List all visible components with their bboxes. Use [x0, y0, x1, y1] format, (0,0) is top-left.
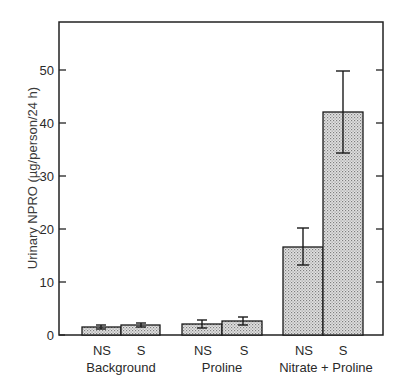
x-label-background-s: S	[137, 343, 146, 358]
group-label-proline: Proline	[202, 360, 242, 375]
group-label-background: Background	[86, 360, 155, 375]
x-label-nitrate-proline-ns: NS	[295, 343, 313, 358]
y-tick-20: 20	[40, 222, 54, 237]
bars	[82, 112, 363, 335]
x-label-background-ns: NS	[93, 343, 111, 358]
y-tick-labels: 0 10 20 30 40 50	[40, 63, 54, 343]
x-sub-labels: NS S NS S NS S	[93, 343, 348, 358]
y-tick-40: 40	[40, 116, 54, 131]
bar-chart: 0 10 20 30 40 50 Urinary NPRO (µg/person…	[0, 0, 402, 388]
bar-proline-s	[222, 321, 262, 335]
y-tick-50: 50	[40, 63, 54, 78]
x-group-labels: Background Proline Nitrate + Proline	[86, 360, 372, 375]
group-label-nitrate-proline: Nitrate + Proline	[279, 360, 373, 375]
y-tick-30: 30	[40, 169, 54, 184]
y-tick-0: 0	[47, 328, 54, 343]
y-axis-label: Urinary NPRO (µg/person/24 h)	[25, 87, 40, 269]
x-label-proline-s: S	[240, 343, 249, 358]
y-axis-ticks-left	[59, 70, 66, 335]
x-label-nitrate-proline-s: S	[339, 343, 348, 358]
y-tick-10: 10	[40, 275, 54, 290]
y-axis-ticks-right	[376, 70, 383, 282]
x-label-proline-ns: NS	[194, 343, 212, 358]
